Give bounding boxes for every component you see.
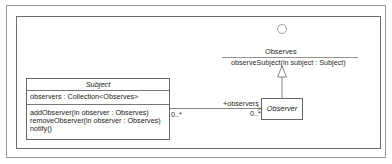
interface-operation: observeSubject(in subject : Subject) [231, 59, 346, 67]
class-name-subject: Subject [30, 80, 166, 89]
class-name-observer: Observer [262, 99, 302, 113]
operations-compartment: addObserver(in observer : Observes) remo… [27, 105, 169, 135]
class-observer[interactable]: Observer [261, 98, 303, 120]
attributes-compartment: observers : Collection<Observes> [27, 91, 169, 105]
target-role-name: +observers [223, 100, 259, 108]
class-name-compartment: Subject [27, 79, 169, 91]
source-multiplicity: 0..* [171, 111, 182, 119]
interface-circle-icon [278, 25, 287, 34]
class-subject[interactable]: Subject observers : Collection<Observes>… [26, 78, 170, 140]
realization-arrowhead-icon [278, 66, 287, 77]
interface-name: Observes [265, 48, 297, 56]
target-multiplicity: 0..* [250, 110, 261, 118]
operation-notify: notify() [30, 125, 166, 133]
attribute-observers: observers : Collection<Observes> [30, 93, 166, 101]
